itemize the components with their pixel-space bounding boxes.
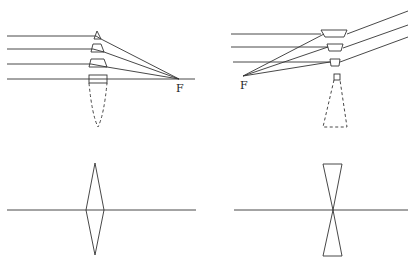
focal-point-label-right: F [240, 79, 248, 92]
prism-3 [89, 59, 107, 67]
prism-3 [330, 59, 340, 66]
prism-top [94, 31, 101, 39]
optics-diagram: F F [0, 0, 408, 266]
diverging-prism-panel [231, 11, 408, 127]
convex-lens-diamond [86, 163, 104, 255]
diverging-lens-panel [234, 164, 408, 256]
refracted-ray-2 [104, 52, 179, 79]
virtual-ray-2 [243, 47, 328, 76]
converging-prism-panel [7, 31, 195, 127]
focal-point-label-left: F [176, 82, 184, 95]
prism-2 [91, 44, 104, 52]
prism-center-block [334, 74, 340, 80]
converging-lens-panel [7, 163, 196, 255]
exit-ray-2 [343, 25, 408, 48]
exit-ray-1 [347, 11, 408, 34]
concave-lens-top-half [323, 164, 342, 210]
prism-top [321, 30, 347, 37]
lens-envelope-dashed [89, 83, 107, 127]
lens-envelope-dashed [323, 80, 347, 127]
refracted-ray-1 [101, 39, 179, 79]
prism-2 [327, 44, 343, 51]
concave-lens-bottom-half [323, 210, 342, 256]
exit-ray-3 [340, 37, 408, 62]
